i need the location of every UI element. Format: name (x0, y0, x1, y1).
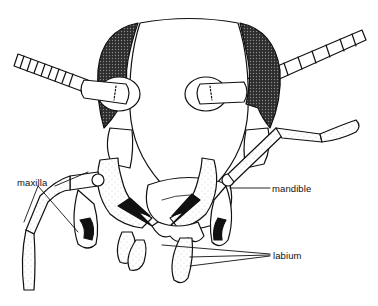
label-maxilla: maxilla (17, 177, 47, 188)
left-maxilla (22, 172, 104, 290)
left-antenna-base (81, 77, 140, 111)
insect-head-diagram (0, 0, 378, 306)
label-mandible: mandible (272, 183, 311, 194)
label-labium: labium (273, 250, 302, 261)
left-mandible (98, 158, 152, 228)
labium (117, 222, 204, 283)
left-antenna (14, 54, 88, 92)
